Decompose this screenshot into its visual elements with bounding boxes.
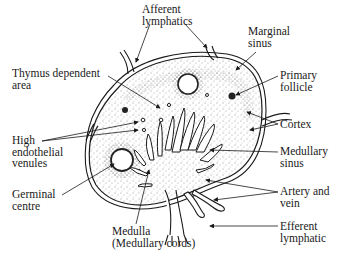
label-marginal-sinus: Marginal sinus xyxy=(248,26,290,49)
label-line: High xyxy=(12,135,63,147)
label-line: lymphatics xyxy=(142,16,192,28)
label-line: Primary xyxy=(280,70,317,82)
label-line: centre xyxy=(12,201,55,213)
label-line: sinus xyxy=(248,38,290,50)
lymph-node-diagram: Afferent lymphatics Marginal sinus Thymu… xyxy=(0,0,342,258)
label-high-endothelial-venules: High endothelial venules xyxy=(12,135,63,170)
label-line: Artery and xyxy=(280,186,330,198)
label-line: sinus xyxy=(280,158,328,170)
label-primary-follicle: Primary follicle xyxy=(280,70,317,93)
label-line: follicle xyxy=(280,82,317,94)
label-line: lymphatic xyxy=(280,233,326,245)
label-line: Germinal xyxy=(12,189,55,201)
label-cortex: Cortex xyxy=(280,119,311,131)
label-line: Cortex xyxy=(280,119,311,131)
label-efferent-lymphatic: Efferent lymphatic xyxy=(280,221,326,244)
label-line: venules xyxy=(12,158,63,170)
label-thymus-dependent-area: Thymus dependent area xyxy=(12,68,100,91)
label-line: Medulla xyxy=(112,226,195,238)
label-line: Afferent xyxy=(142,4,192,16)
label-line: Efferent xyxy=(280,221,326,233)
label-medullary-sinus: Medullary sinus xyxy=(280,146,328,169)
label-line: Marginal xyxy=(248,26,290,38)
label-line: vein xyxy=(280,198,330,210)
label-afferent-lymphatics: Afferent lymphatics xyxy=(142,4,192,27)
label-line: Medullary xyxy=(280,146,328,158)
label-line: area xyxy=(12,80,100,92)
label-artery-and-vein: Artery and vein xyxy=(280,186,330,209)
label-line: (Medullary cords) xyxy=(112,238,195,250)
label-line: Thymus dependent xyxy=(12,68,100,80)
label-germinal-centre: Germinal centre xyxy=(12,189,55,212)
label-medulla: Medulla (Medullary cords) xyxy=(112,226,195,249)
